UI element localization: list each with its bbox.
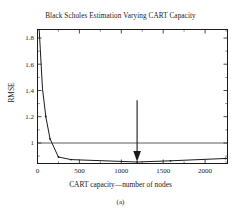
- y-axis-label: RMSE: [7, 63, 16, 123]
- y-tick-label: 1: [31, 139, 35, 147]
- figure-caption: (a): [0, 198, 241, 206]
- x-axis-label: CART capacity—number of nodes: [0, 180, 241, 189]
- y-tick-label: 1.6: [25, 61, 34, 69]
- y-tick-label: 1.2: [25, 113, 34, 121]
- x-tick-label: 1000: [114, 167, 129, 175]
- x-tick-label: 500: [74, 167, 85, 175]
- y-tick-labels: 1 1.2 1.4 1.6 1.8: [25, 34, 34, 147]
- x-tick-labels: 0 500 1000 1500 2000: [36, 167, 213, 175]
- y-tick-label: 1.8: [25, 34, 34, 42]
- x-tick-label: 2000: [198, 167, 213, 175]
- x-tick-label: 0: [36, 167, 40, 175]
- y-tick-label: 1.4: [25, 87, 34, 95]
- x-tick-label: 1500: [156, 167, 171, 175]
- figure-panel: Black Scholes Estimation Varying CART Ca…: [0, 0, 241, 215]
